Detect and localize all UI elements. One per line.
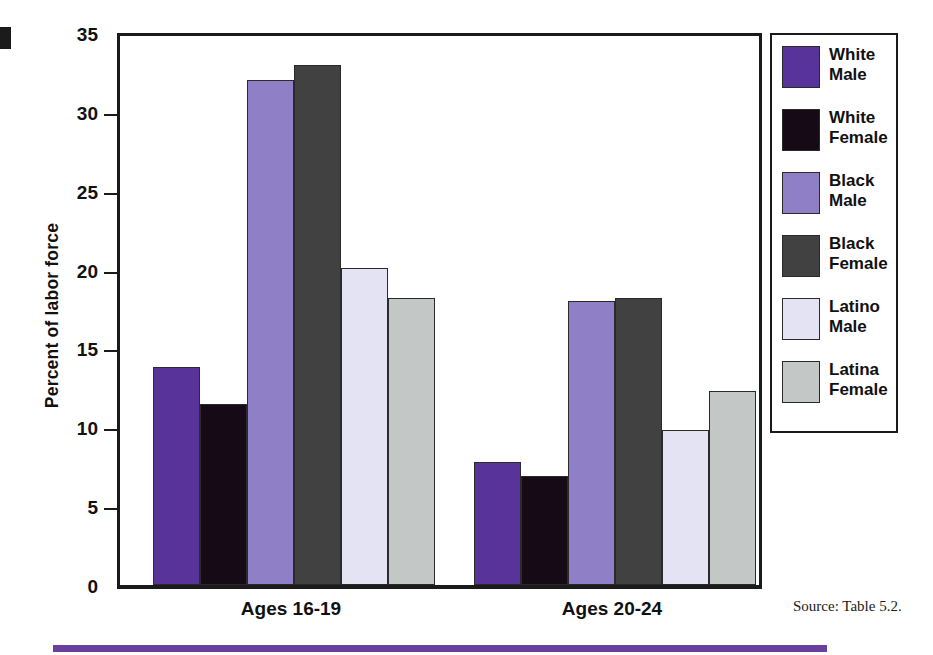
y-axis-tick-label: 10 xyxy=(52,418,98,440)
legend-label-line2: Male xyxy=(829,191,874,211)
legend-label: WhiteFemale xyxy=(829,108,888,148)
y-axis-tick-label: 25 xyxy=(52,182,98,204)
y-axis-tick-label: 15 xyxy=(52,339,98,361)
legend-label-line2: Female xyxy=(829,254,888,274)
y-axis-tick-label: 30 xyxy=(52,103,98,125)
y-axis-tick-label: 0 xyxy=(52,576,98,598)
legend-label-line1: White xyxy=(829,108,888,128)
legend-swatch xyxy=(782,235,820,277)
legend-item[interactable]: WhiteFemale xyxy=(782,108,896,171)
legend-box: WhiteMaleWhiteFemaleBlackMaleBlackFemale… xyxy=(770,33,898,433)
bars-layer xyxy=(120,36,759,585)
bar xyxy=(662,430,709,585)
legend-item[interactable]: LatinoMale xyxy=(782,297,896,360)
legend-label: BlackFemale xyxy=(829,234,888,274)
bar xyxy=(568,301,615,585)
legend-label: WhiteMale xyxy=(829,45,875,85)
legend-label-line1: White xyxy=(829,45,875,65)
bar xyxy=(388,298,435,585)
bar xyxy=(247,80,294,585)
legend-label-line2: Female xyxy=(829,380,888,400)
figure-bar-chart: Percent of labor force 05101520253035 Ag… xyxy=(0,0,933,655)
legend-label: LatinoMale xyxy=(829,297,880,337)
bar xyxy=(153,367,200,585)
bar xyxy=(521,476,568,585)
y-axis-tick-label: 20 xyxy=(52,261,98,283)
legend-label: LatinaFemale xyxy=(829,360,888,400)
legend-label-line1: Latino xyxy=(829,297,880,317)
legend-item[interactable]: WhiteMale xyxy=(782,45,896,108)
bar xyxy=(200,404,247,585)
legend-label-line1: Latina xyxy=(829,360,888,380)
legend-swatch xyxy=(782,109,820,151)
legend-swatch xyxy=(782,361,820,403)
legend-swatch xyxy=(782,298,820,340)
source-note: Source: Table 5.2. xyxy=(793,598,902,615)
legend-item[interactable]: LatinaFemale xyxy=(782,360,896,423)
legend-label-line1: Black xyxy=(829,234,888,254)
bar xyxy=(709,391,756,585)
bar xyxy=(615,298,662,585)
y-axis-tick-labels: 05101520253035 xyxy=(0,0,98,655)
legend-label-line1: Black xyxy=(829,171,874,191)
plot-area xyxy=(117,33,762,589)
x-axis-group-label: Ages 16-19 xyxy=(201,598,381,620)
bar xyxy=(474,462,521,585)
bottom-rule xyxy=(53,645,827,652)
legend-item[interactable]: BlackMale xyxy=(782,171,896,234)
bar xyxy=(294,65,341,585)
legend-label-line2: Female xyxy=(829,128,888,148)
legend-label: BlackMale xyxy=(829,171,874,211)
bar xyxy=(341,268,388,585)
legend-item[interactable]: BlackFemale xyxy=(782,234,896,297)
legend-swatch xyxy=(782,172,820,214)
legend-label-line2: Male xyxy=(829,317,880,337)
y-axis-tick-label: 35 xyxy=(52,24,98,46)
legend-label-line2: Male xyxy=(829,65,875,85)
y-axis-tick-label: 5 xyxy=(52,497,98,519)
legend-swatch xyxy=(782,46,820,88)
x-axis-group-label: Ages 20-24 xyxy=(522,598,702,620)
